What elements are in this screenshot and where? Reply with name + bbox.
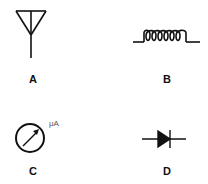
microampere-unit-label: μA [49,120,59,128]
label-c: C [29,166,37,177]
label-a: A [29,74,37,85]
label-b: B [163,74,171,85]
label-d: D [163,166,171,177]
meter-icon [16,124,44,152]
symbols-diagram: μA A B C D [0,0,208,184]
antenna-icon [16,11,46,58]
diode-icon [142,130,186,148]
inductor-icon [133,30,200,42]
